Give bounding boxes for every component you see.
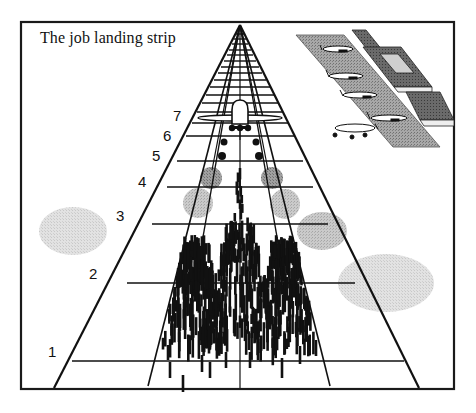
terminal-wing-lower-front (420, 120, 454, 126)
rung-label-4: 4 (138, 173, 146, 190)
runway-lane-mid-right (240, 25, 268, 170)
rung-label-7: 7 (173, 107, 181, 124)
cloud-right-mid (297, 212, 347, 250)
runway-lane-mid-left (212, 25, 240, 170)
parked-airplane (333, 124, 378, 139)
rung-label-3: 3 (116, 207, 124, 224)
diagram-title: The job landing strip (40, 29, 176, 47)
landing-strip-diagram: The job landing strip 1234567 (0, 0, 476, 413)
airplane-fuselage (232, 100, 248, 124)
terminal-front (394, 87, 432, 92)
cloud-far-left (39, 207, 107, 255)
airport-terminal-area (296, 30, 454, 147)
rung-label-2: 2 (89, 265, 97, 282)
diagram-canvas (0, 0, 476, 413)
rung-label-5: 5 (152, 147, 160, 164)
rung-label-6: 6 (163, 127, 171, 144)
rung-label-1: 1 (48, 343, 56, 360)
